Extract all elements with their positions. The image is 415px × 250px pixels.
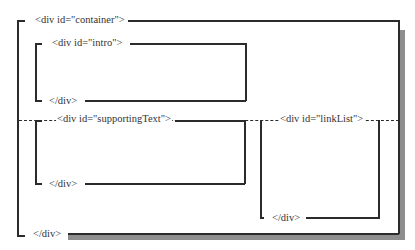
linklist-close-tag: </div>: [272, 212, 300, 224]
container-shadow-bottom: [68, 234, 405, 240]
supportingtext-close-tag: </div>: [49, 178, 77, 190]
linklist-left-line: [260, 120, 262, 219]
supportingtext-open-tag: <div id="supportingText">: [56, 113, 172, 125]
linklist-bottom-line: [306, 217, 379, 219]
supportingtext-left-line: [35, 120, 37, 184]
intro-close-tag: </div>: [49, 95, 77, 107]
intro-bottom-line: [85, 100, 246, 102]
supportingtext-right-line: [244, 120, 246, 184]
container-top-tick: [17, 20, 25, 22]
intro-top-tick: [35, 43, 42, 45]
container-open-tag: <div id="container">: [35, 14, 125, 26]
container-shadow-right: [399, 30, 405, 240]
supportingtext-bottom-line: [85, 183, 245, 185]
linklist-bottom-tick: [260, 217, 264, 219]
container-top-line: [128, 20, 399, 22]
linklist-right-line: [378, 120, 380, 219]
container-bottom-tick: [17, 235, 25, 237]
intro-open-tag: <div id="intro">: [52, 37, 122, 49]
intro-top-line: [130, 43, 246, 45]
intro-bottom-tick: [35, 100, 42, 102]
container-right-line: [398, 20, 400, 234]
supportingtext-top-tick: [35, 120, 42, 122]
supportingtext-top-line: [175, 120, 245, 122]
container-bottom-line: [68, 233, 399, 235]
container-close-tag: </div>: [33, 228, 61, 240]
intro-left-line: [35, 43, 37, 101]
supportingtext-bottom-tick: [35, 183, 42, 185]
container-left-line: [17, 20, 19, 236]
intro-right-line: [245, 43, 247, 101]
linklist-open-tag: <div id="linkList">: [279, 113, 364, 125]
